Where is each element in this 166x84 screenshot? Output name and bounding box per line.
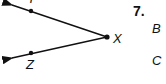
ray-xy xyxy=(12,5,107,37)
label-z: Z xyxy=(26,58,34,71)
choice-c: C xyxy=(152,54,161,67)
label-y: Y xyxy=(27,0,36,5)
vertex-x xyxy=(104,34,109,39)
choice-b: B xyxy=(152,22,161,35)
label-x: X xyxy=(113,32,122,45)
point-z xyxy=(29,51,33,55)
ray-xz xyxy=(12,37,107,58)
problem-number: 7. xyxy=(133,4,145,18)
point-y xyxy=(29,9,33,13)
